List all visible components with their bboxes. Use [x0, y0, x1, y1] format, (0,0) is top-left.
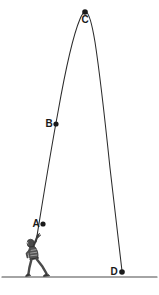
point-label-B: B — [45, 118, 52, 129]
point-label-A: A — [32, 218, 39, 229]
point-label-D: D — [110, 266, 117, 277]
thrower-trail-leg — [28, 260, 31, 275]
point-marker-D: D — [110, 266, 124, 277]
diagram-canvas: A B C D — [0, 0, 159, 295]
point-marker-A: A — [32, 218, 45, 229]
point-dot-D — [119, 269, 125, 275]
point-dot-B — [53, 121, 58, 126]
point-dot-A — [40, 221, 45, 226]
point-label-C: C — [81, 14, 88, 25]
projectile-diagram-svg: A B C D — [0, 0, 159, 295]
thrower-head — [27, 239, 34, 247]
person-throwing — [26, 234, 50, 277]
thrower-lead-leg — [37, 259, 47, 273]
point-marker-C: C — [81, 9, 88, 25]
ball-trajectory-path — [36, 12, 122, 271]
thrower-trail-shoe — [26, 274, 31, 276]
thrower-lead-shoe — [43, 274, 49, 277]
